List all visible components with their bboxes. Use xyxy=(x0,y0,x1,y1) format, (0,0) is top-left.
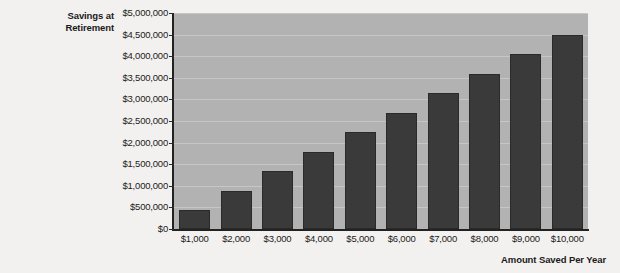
y-axis-tick-mark xyxy=(169,143,174,144)
x-axis-tick-label: $10,000 xyxy=(547,233,588,244)
bar xyxy=(428,93,459,229)
y-axis-tick-mark xyxy=(169,13,174,14)
y-axis-tick-label: $5,000,000 xyxy=(88,7,168,18)
x-axis-line xyxy=(172,229,589,231)
bar xyxy=(303,152,334,229)
x-axis-tick-label: $4,000 xyxy=(298,233,339,244)
y-axis-tick-label: $4,500,000 xyxy=(88,29,168,40)
x-axis-tick-label: $6,000 xyxy=(381,233,422,244)
y-axis-tick-mark xyxy=(169,78,174,79)
y-axis-tick-labels: $0$500,000$1,000,000$1,500,000$2,000,000… xyxy=(88,0,168,273)
bar xyxy=(510,54,541,229)
y-axis-tick-mark xyxy=(169,229,174,230)
bar xyxy=(262,171,293,229)
y-axis-tick-mark xyxy=(169,99,174,100)
y-axis-tick-label: $500,000 xyxy=(88,201,168,212)
y-axis-tick-mark xyxy=(169,56,174,57)
x-axis-title: Amount Saved Per Year xyxy=(501,254,606,265)
y-axis-tick-mark xyxy=(169,35,174,36)
y-axis-tick-label: $1,500,000 xyxy=(88,158,168,169)
bar xyxy=(345,132,376,229)
bars xyxy=(174,13,588,229)
plot-area xyxy=(174,13,588,229)
x-axis-tick-label: $2,000 xyxy=(215,233,256,244)
y-axis-tick-label: $4,000,000 xyxy=(88,50,168,61)
bar xyxy=(221,191,252,229)
y-axis-tick-mark xyxy=(169,164,174,165)
bar xyxy=(552,35,583,229)
x-axis-tick-label: $1,000 xyxy=(174,233,215,244)
bar xyxy=(179,210,210,229)
x-axis-tick-label: $8,000 xyxy=(464,233,505,244)
y-axis-tick-mark xyxy=(169,186,174,187)
bar-chart: Savings at Retirement $0$500,000$1,000,0… xyxy=(0,0,620,273)
y-axis-tick-label: $1,000,000 xyxy=(88,180,168,191)
y-axis-tick-label: $2,000,000 xyxy=(88,137,168,148)
x-axis-tick-label: $3,000 xyxy=(257,233,298,244)
y-axis-tick-label: $0 xyxy=(88,223,168,234)
y-axis-tick-mark xyxy=(169,121,174,122)
x-axis-tick-label: $5,000 xyxy=(340,233,381,244)
bar xyxy=(386,113,417,229)
y-axis-tick-mark xyxy=(169,207,174,208)
x-axis-tick-labels: $1,000$2,000$3,000$4,000$5,000$6,000$7,0… xyxy=(174,233,588,249)
y-axis-tick-label: $3,500,000 xyxy=(88,72,168,83)
y-axis-tick-label: $2,500,000 xyxy=(88,115,168,126)
y-axis-tick-label: $3,000,000 xyxy=(88,93,168,104)
x-axis-tick-label: $7,000 xyxy=(422,233,463,244)
x-axis-tick-label: $9,000 xyxy=(505,233,546,244)
bar xyxy=(469,74,500,229)
